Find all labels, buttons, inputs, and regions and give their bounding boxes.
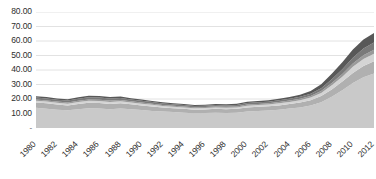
x-tick-label: 1990 [123, 139, 143, 159]
y-axis: 80.0070.0060.0050.0040.0030.0020.0010.00… [0, 0, 34, 135]
x-tick-label: 1996 [187, 139, 207, 159]
x-tick-label: 1994 [165, 139, 185, 159]
y-tick-label: 40.00 [11, 65, 32, 74]
x-tick-label: 1988 [102, 139, 122, 159]
y-tick-label: 60.00 [11, 36, 32, 45]
y-tick-label: 30.00 [11, 80, 32, 89]
y-tick-label: 20.00 [11, 94, 32, 103]
x-tick-label: 1982 [39, 139, 59, 159]
plot-svg [36, 12, 374, 128]
x-tick-label: 2002 [250, 139, 270, 159]
x-tick-label: 1986 [81, 139, 101, 159]
x-tick-label: 2006 [292, 139, 312, 159]
x-tick-label: 1992 [144, 139, 164, 159]
y-tick-label: 50.00 [11, 51, 32, 60]
x-tick-label: 2010 [334, 139, 354, 159]
y-tick-label: - [29, 123, 32, 132]
x-tick-label: 2012 [356, 139, 376, 159]
x-axis: 1980198219841986198819901992199419961998… [36, 128, 374, 179]
x-tick-label: 1980 [18, 139, 38, 159]
x-tick-label: 2004 [271, 139, 291, 159]
x-tick-label: 1984 [60, 139, 80, 159]
x-tick-label: 2008 [313, 139, 333, 159]
x-tick-label: 2000 [229, 139, 249, 159]
y-tick-label: 10.00 [11, 109, 32, 118]
y-tick-label: 70.00 [11, 22, 32, 31]
plot-area [36, 12, 374, 128]
x-tick-label: 1998 [208, 139, 228, 159]
y-tick-label: 80.00 [11, 7, 32, 16]
